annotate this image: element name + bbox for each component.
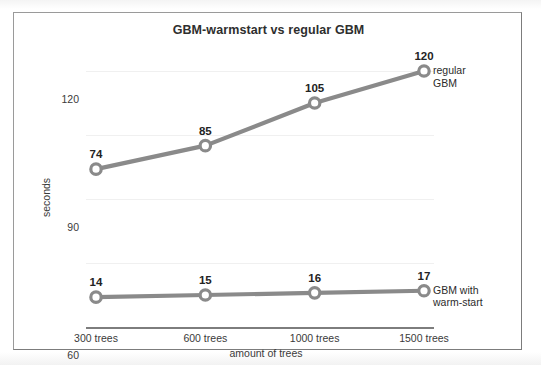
series-end-label: GBM withwarm-start [433,284,483,309]
data-point-marker[interactable] [91,292,101,302]
data-point-marker[interactable] [200,140,210,150]
data-point-value-label: 105 [305,82,324,94]
data-point-marker[interactable] [309,288,319,298]
x-axis-title: amount of trees [86,347,446,359]
data-point-value-label: 17 [418,270,431,282]
series-1 [91,66,429,175]
x-tick-label: 600 trees [183,332,227,344]
data-point-marker[interactable] [419,66,429,76]
x-tick-label: 1500 trees [399,332,449,344]
y-axis-title: seconds [40,178,52,217]
data-point-marker[interactable] [419,286,429,296]
data-point-value-label: 16 [308,272,321,284]
x-tick-label: 300 trees [74,332,118,344]
chart-frame: GBM-warmstart vs regular GBM seconds 030… [13,12,522,350]
data-point-value-label: 74 [90,148,103,160]
series-label-line: GBM with [433,284,483,297]
data-point-value-label: 15 [199,274,212,286]
data-point-value-label: 14 [90,276,103,288]
series-line [96,291,424,297]
scanned-page-surface: GBM-warmstart vs regular GBM seconds 030… [0,0,541,365]
series-label-line: warm-start [433,296,483,309]
data-point-value-label: 120 [414,50,433,62]
y-tick-label: 90 [67,221,79,233]
data-point-marker[interactable] [309,98,319,108]
y-tick-label: 60 [67,349,79,361]
series-label-line: GBM [433,77,466,90]
axis-baseline: 0 [86,327,434,329]
data-point-marker[interactable] [200,290,210,300]
series-end-label: regularGBM [433,64,466,89]
x-tick-label: 1000 trees [290,332,340,344]
data-point-marker[interactable] [91,164,101,174]
plot-area: 0306090120 300 trees600 trees1000 trees1… [86,43,446,327]
series-line [96,71,424,169]
chart-title: GBM-warmstart vs regular GBM [14,23,523,37]
series-2 [91,286,429,303]
series-label-line: regular [433,64,466,77]
data-point-value-label: 85 [199,125,212,137]
series-plot-svg [86,43,446,327]
y-tick-label: 120 [61,93,79,105]
